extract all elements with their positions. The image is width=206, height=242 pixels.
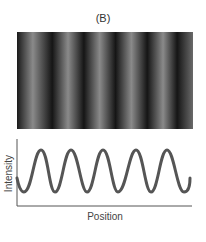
interference-fringe-image [17, 32, 193, 129]
y-axis-label: Intensity [3, 152, 14, 196]
figure-panel-label: (B) [0, 12, 206, 24]
intensity-plot [0, 135, 206, 215]
x-axis-label: Position [17, 211, 193, 222]
intensity-curve [17, 150, 190, 192]
